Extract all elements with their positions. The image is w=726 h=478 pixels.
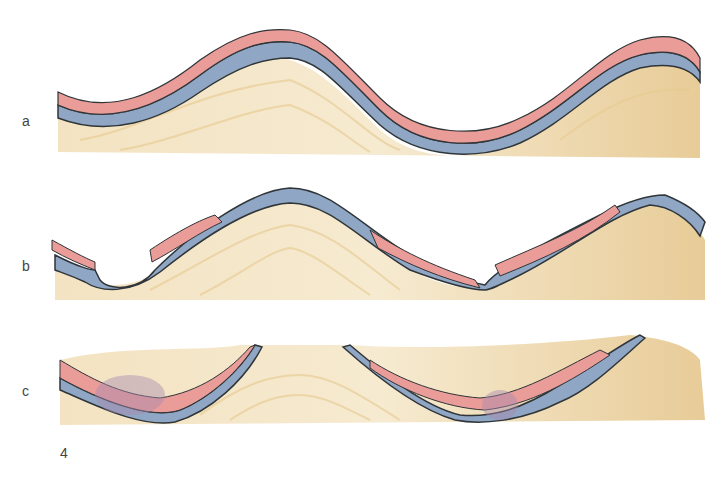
- figure-number: 4: [60, 445, 68, 461]
- panel-c-diagram: [60, 335, 705, 425]
- panel-label-a: a: [22, 113, 30, 129]
- panel-label-b: b: [22, 258, 30, 274]
- panel-a-diagram: [58, 30, 700, 158]
- panel-b-diagram: [52, 188, 705, 300]
- panel-label-c: c: [22, 383, 29, 399]
- fold-diagram: [0, 0, 726, 478]
